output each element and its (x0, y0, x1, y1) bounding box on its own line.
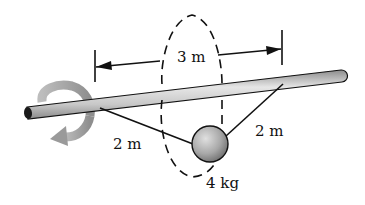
ball-mass (192, 126, 228, 162)
mass-label: 4 kg (206, 176, 239, 191)
arrowhead-right-icon (266, 46, 281, 55)
shaft-ball-diagram (0, 0, 365, 205)
shaft (23, 70, 347, 119)
right-cable-label: 2 m (255, 124, 284, 139)
arrowhead-left-icon (96, 61, 112, 70)
rotation-arrow-front (50, 116, 90, 146)
left-cable-label: 2 m (113, 137, 142, 152)
span-label: 3 m (175, 50, 208, 65)
